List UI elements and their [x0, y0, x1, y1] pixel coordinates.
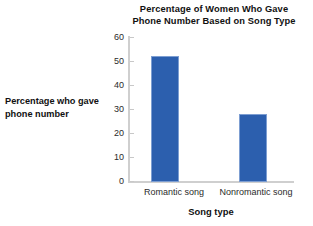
y-tick-label-30: 30: [102, 105, 124, 114]
y-axis-title-line-2: phone number: [5, 108, 105, 121]
bar-chart-figure: Percentage of Women Who Gave Phone Numbe…: [0, 0, 313, 226]
plot-area: 0 10 20 30 40 50 60 Romantic song Nonrom…: [128, 36, 294, 184]
y-tick-label-40: 40: [102, 81, 124, 90]
y-axis-title-line-1: Percentage who gave: [5, 95, 105, 108]
y-tick-label-60: 60: [102, 33, 124, 42]
bar-romantic-song: [151, 56, 179, 182]
y-tick-label-50: 50: [102, 57, 124, 66]
chart-title-line-1: Percentage of Women Who Gave: [118, 3, 310, 15]
chart-title-line-2: Phone Number Based on Song Type: [118, 15, 310, 27]
y-axis-title: Percentage who gave phone number: [5, 95, 105, 120]
bar-nonromantic-song: [239, 114, 267, 182]
y-tick-mark: [130, 157, 134, 158]
x-tick-label-nonromantic-song: Nonromantic song: [201, 187, 311, 198]
y-tick-mark: [130, 37, 134, 38]
y-tick-mark: [130, 61, 134, 62]
y-tick-mark: [130, 133, 134, 134]
chart-title: Percentage of Women Who Gave Phone Numbe…: [118, 3, 310, 27]
y-axis-tick-labels: 0 10 20 30 40 50 60: [102, 36, 124, 183]
y-tick-label-20: 20: [102, 129, 124, 138]
y-tick-mark: [130, 109, 134, 110]
y-tick-mark: [130, 181, 134, 182]
x-axis-title: Song type: [128, 206, 294, 217]
y-tick-label-10: 10: [102, 153, 124, 162]
y-tick-label-0: 0: [102, 177, 124, 186]
y-tick-mark: [130, 85, 134, 86]
